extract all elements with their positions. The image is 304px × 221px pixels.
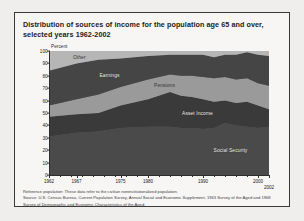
chart-title: Distribution of sources of income for th… bbox=[23, 20, 271, 40]
x-tick-mark-2002 bbox=[269, 175, 270, 178]
y-tick-mark-100 bbox=[47, 51, 50, 52]
x-minor-tick-1966 bbox=[71, 175, 72, 177]
x-tick-label-1975: 1975 bbox=[115, 179, 125, 184]
plot-wrapper: 0102030405060708090100 19621967197519801… bbox=[49, 51, 269, 175]
footnote-line-3: Survey of Demographic and Economic Chara… bbox=[23, 202, 279, 208]
footnotes: Reference population: These data refer t… bbox=[23, 189, 279, 208]
x-tick-label-1962: 1962 bbox=[44, 179, 54, 184]
y-tick-mark-40 bbox=[47, 125, 50, 126]
x-tick-mark-1975 bbox=[121, 175, 122, 178]
x-tick-mark-2000 bbox=[258, 175, 259, 178]
figure-frame: Distribution of sources of income for th… bbox=[14, 12, 290, 207]
x-tick-mark-1980 bbox=[148, 175, 149, 178]
x-tick-mark-1967 bbox=[77, 175, 78, 178]
x-minor-tick-1984 bbox=[170, 175, 171, 177]
x-tick-mark-1962 bbox=[49, 175, 50, 178]
y-tick-mark-30 bbox=[47, 137, 50, 138]
x-minor-tick-1986 bbox=[181, 175, 182, 177]
y-tick-mark-50 bbox=[47, 113, 50, 114]
x-minor-tick-1978 bbox=[137, 175, 138, 177]
x-minor-tick-1992 bbox=[214, 175, 215, 177]
x-minor-tick-1982 bbox=[159, 175, 160, 177]
y-tick-mark-10 bbox=[47, 162, 50, 163]
x-minor-tick-1964 bbox=[60, 175, 61, 177]
x-minor-tick-1988 bbox=[192, 175, 193, 177]
x-tick-label-1990: 1990 bbox=[198, 179, 208, 184]
x-tick-label-1980: 1980 bbox=[143, 179, 153, 184]
y-tick-mark-20 bbox=[47, 150, 50, 151]
stacked-area-plot bbox=[49, 51, 269, 175]
x-minor-tick-1996 bbox=[236, 175, 237, 177]
series-label-asset-income: Asset Income bbox=[182, 111, 213, 116]
figure-page: Distribution of sources of income for th… bbox=[0, 0, 304, 221]
x-minor-tick-1970 bbox=[93, 175, 94, 177]
y-tick-mark-60 bbox=[47, 100, 50, 101]
x-minor-tick-1974 bbox=[115, 175, 116, 177]
x-tick-mark-1990 bbox=[203, 175, 204, 178]
x-minor-tick-1968 bbox=[82, 175, 83, 177]
series-label-other: Other bbox=[73, 54, 86, 59]
footnote-line-2: Source: U.S. Census Bureau, Current Popu… bbox=[23, 195, 279, 201]
series-label-social-security: Social Security bbox=[214, 147, 248, 152]
area-series-group bbox=[49, 51, 269, 175]
y-tick-mark-80 bbox=[47, 75, 50, 76]
x-minor-tick-1972 bbox=[104, 175, 105, 177]
x-tick-label-2000: 2000 bbox=[253, 179, 263, 184]
x-minor-tick-1998 bbox=[247, 175, 248, 177]
series-label-earnings: Earnings bbox=[99, 72, 119, 77]
x-tick-label-1967: 1967 bbox=[71, 179, 81, 184]
figure-inner: Distribution of sources of income for th… bbox=[15, 13, 289, 206]
y-tick-mark-90 bbox=[47, 63, 50, 64]
y-tick-mark-70 bbox=[47, 88, 50, 89]
y-axis-unit-label: Percent bbox=[51, 44, 67, 49]
x-minor-tick-1994 bbox=[225, 175, 226, 177]
series-label-pensions: Pensions bbox=[154, 82, 175, 87]
x-minor-tick-1976 bbox=[126, 175, 127, 177]
